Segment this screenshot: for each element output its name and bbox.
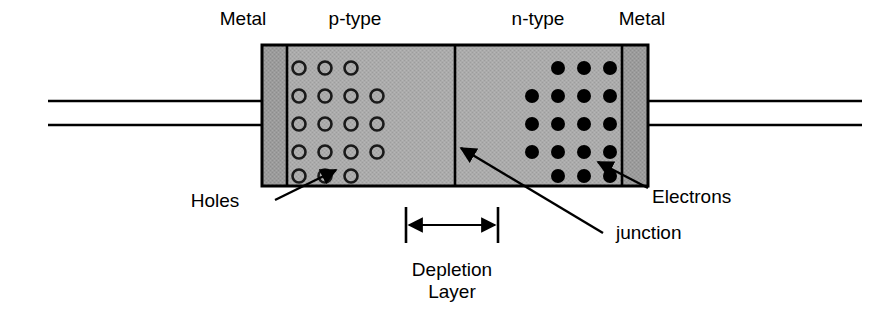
- electron: [577, 117, 591, 131]
- metal-contact-left: [262, 45, 287, 186]
- p-type-region: [287, 45, 455, 186]
- label-depletion-layer-line1: Depletion: [412, 259, 492, 281]
- electron: [577, 61, 591, 75]
- electron: [525, 117, 539, 131]
- label-p-type: p-type: [329, 8, 382, 30]
- electron: [551, 89, 565, 103]
- electron: [577, 169, 591, 183]
- label-junction: junction: [616, 222, 682, 244]
- electron: [551, 145, 565, 159]
- label-depletion-layer-line2: Layer: [428, 281, 476, 303]
- lead-wire-left: [48, 101, 264, 125]
- label-electrons: Electrons: [652, 186, 731, 208]
- electron: [525, 89, 539, 103]
- electron: [551, 61, 565, 75]
- electron: [603, 145, 617, 159]
- depletion-layer-bracket: [406, 207, 498, 243]
- electron: [525, 145, 539, 159]
- electron: [603, 117, 617, 131]
- lead-wire-right: [646, 101, 862, 125]
- electron: [603, 61, 617, 75]
- electron: [577, 145, 591, 159]
- label-metal-left: Metal: [220, 8, 266, 30]
- electron: [551, 117, 565, 131]
- electron: [577, 89, 591, 103]
- n-type-region: [455, 45, 622, 186]
- metal-contact-right: [622, 45, 648, 186]
- diagram-canvas: Metal p-type n-type Metal Holes Electron…: [0, 0, 893, 325]
- label-metal-right: Metal: [619, 8, 665, 30]
- electron: [603, 89, 617, 103]
- label-n-type: n-type: [512, 8, 565, 30]
- electron: [551, 169, 565, 183]
- label-holes: Holes: [191, 190, 240, 212]
